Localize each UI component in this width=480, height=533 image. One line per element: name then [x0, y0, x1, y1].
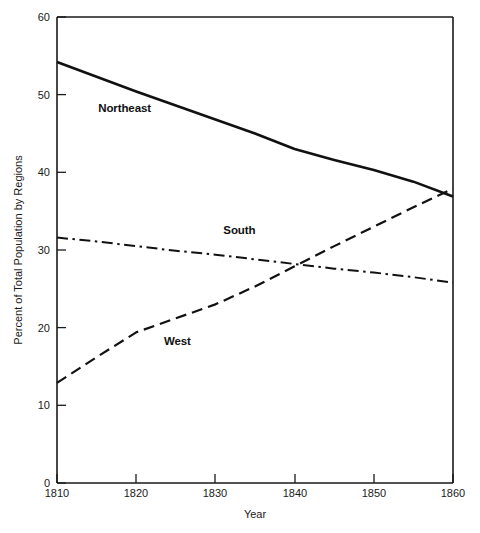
y-tick-label: 30: [38, 244, 50, 256]
x-tick-label: 1810: [45, 487, 69, 499]
x-tick-labels: 1810 1820 1830 1840 1850 1860: [45, 487, 465, 499]
y-tick-label: 50: [38, 89, 50, 101]
x-tick-label: 1830: [203, 487, 227, 499]
series-line-northeast: [57, 62, 453, 196]
y-tick-marks: [57, 17, 66, 483]
series-labels: Northeast South West: [98, 102, 255, 347]
y-tick-labels: 60 50 40 30 20 10 0: [38, 11, 50, 489]
y-tick-label: 60: [38, 11, 50, 23]
x-tick-marks: [57, 474, 453, 483]
x-axis-title: Year: [244, 508, 267, 520]
x-tick-label: 1850: [362, 487, 386, 499]
series-label-west: West: [164, 335, 191, 347]
series-line-west: [57, 189, 453, 383]
y-tick-label: 10: [38, 399, 50, 411]
series-label-south: South: [223, 224, 255, 236]
y-tick-label: 20: [38, 322, 50, 334]
chart-figure: 60 50 40 30 20 10 0 1810 1820 1830 1840 …: [0, 0, 480, 533]
x-tick-label: 1840: [283, 487, 307, 499]
series-label-northeast: Northeast: [98, 102, 151, 114]
series-line-south: [57, 238, 453, 283]
y-tick-label: 40: [38, 166, 50, 178]
y-axis-title: Percent of Total Population by Regions: [12, 155, 24, 345]
line-chart: 60 50 40 30 20 10 0 1810 1820 1830 1840 …: [0, 0, 480, 533]
x-tick-label: 1860: [441, 487, 465, 499]
x-tick-label: 1820: [124, 487, 148, 499]
